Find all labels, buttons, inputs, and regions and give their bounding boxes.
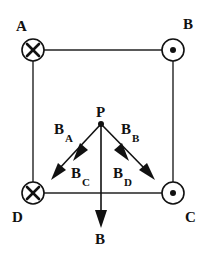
label-p: P	[96, 104, 105, 120]
bc-arrowhead	[51, 163, 66, 180]
svg-text:C: C	[82, 176, 90, 188]
label-d: D	[12, 209, 23, 225]
bb-arrowhead	[114, 143, 129, 161]
label-a: A	[16, 18, 27, 34]
svg-text:B: B	[113, 165, 123, 181]
svg-text:D: D	[124, 176, 132, 188]
wire-d-cross-icon	[22, 182, 44, 204]
wire-a-cross-icon	[22, 39, 44, 61]
resultant-arrowhead	[95, 210, 107, 228]
label-ba: B A	[54, 121, 73, 144]
label-c: C	[185, 209, 196, 225]
label-bc: B C	[71, 165, 90, 188]
label-bb: B B	[121, 121, 140, 144]
label-b: B	[183, 16, 193, 32]
svg-text:A: A	[65, 132, 73, 144]
label-bd: B D	[113, 165, 132, 188]
magnetic-field-diagram: A B C D P B B A B B B C B D	[0, 0, 209, 257]
svg-text:B: B	[54, 121, 64, 137]
svg-text:B: B	[71, 165, 81, 181]
svg-text:B: B	[132, 132, 140, 144]
wire-b-dot-icon	[162, 39, 184, 61]
label-resultant-b: B	[95, 231, 105, 247]
wire-c-dot-icon	[162, 182, 184, 204]
svg-text:B: B	[121, 121, 131, 137]
